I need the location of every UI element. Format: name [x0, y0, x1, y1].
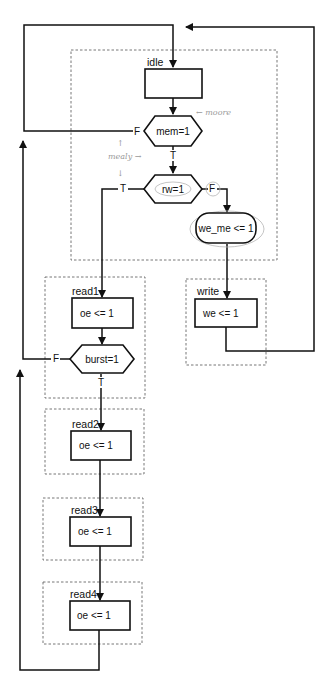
asm-chart: idle mem=1 F T rw=1 T F we_me <= 1 ← moo…	[0, 0, 332, 693]
annotation-arrow-up: ↑	[117, 139, 124, 148]
state-label-idle: idle	[147, 56, 164, 68]
decision-mem-true-label: T	[170, 150, 176, 161]
state-action-write: we <= 1	[202, 308, 239, 319]
wire-burst-false-to-idle	[23, 141, 70, 359]
decision-burst-label: burst=1	[85, 354, 119, 365]
decision-rw-true-label: T	[120, 183, 126, 194]
annotation-moore: ← moore	[196, 108, 231, 117]
decision-burst-true-label: T	[98, 377, 104, 388]
wire-rw-true-to-read1	[102, 189, 144, 297]
state-action-read4: oe <= 1	[77, 610, 111, 621]
state-action-read3: oe <= 1	[78, 526, 112, 537]
state-label-read1: read1	[72, 285, 99, 297]
annotation-mealy: mealy →	[108, 152, 142, 161]
decision-rw-false-label: F	[209, 183, 215, 194]
state-action-read1: oe <= 1	[80, 308, 114, 319]
state-label-write: write	[196, 285, 219, 297]
decision-rw-label: rw=1	[162, 184, 184, 195]
decision-burst-false-label: F	[53, 353, 59, 364]
state-label-read2: read2	[72, 418, 99, 430]
state-action-read2: oe <= 1	[79, 440, 113, 451]
state-label-read3: read3	[71, 504, 98, 516]
annotation-arrow-down: ↓	[117, 169, 124, 178]
conditional-output-we-me-label: we_me <= 1	[197, 223, 253, 234]
decision-mem-false-label: F	[134, 126, 140, 137]
state-box-idle	[145, 69, 202, 98]
state-label-read4: read4	[70, 588, 97, 600]
decision-mem-label: mem=1	[156, 126, 190, 137]
